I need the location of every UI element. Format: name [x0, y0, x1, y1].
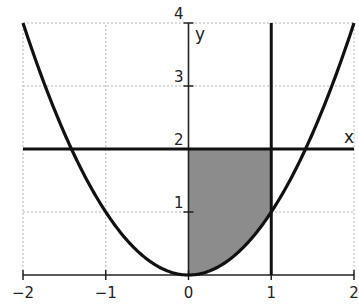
x-tick-label: −1	[95, 284, 117, 302]
y-tick-label: 2	[174, 131, 184, 149]
y-axis-label: y	[195, 24, 205, 44]
tick-labels: −2−10121234	[12, 5, 359, 302]
y-tick-label: 4	[174, 5, 184, 23]
y-tick-label: 1	[174, 194, 184, 212]
shaded-region	[189, 149, 272, 275]
x-tick-label: 1	[266, 284, 276, 302]
x-tick-label: 2	[349, 284, 359, 302]
parabola-chart: −2−10121234 x y	[0, 0, 359, 307]
x-axis-label: x	[344, 127, 354, 147]
x-tick-label: 0	[184, 284, 194, 302]
x-tick-label: −2	[12, 284, 34, 302]
y-tick-label: 3	[174, 68, 184, 86]
